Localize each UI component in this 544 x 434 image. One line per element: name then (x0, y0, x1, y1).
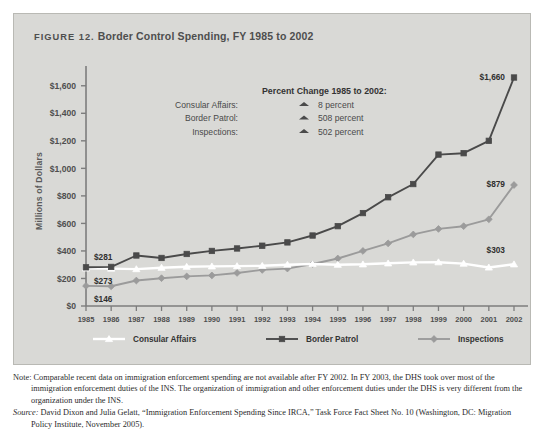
svg-text:$400: $400 (57, 246, 76, 256)
legend-item-inspections: Inspections (418, 335, 504, 344)
note-paragraph: Note: Comparable recent data on immigrat… (13, 372, 531, 406)
svg-text:1990: 1990 (204, 315, 221, 324)
series-consular-affairs (82, 259, 517, 272)
series-border-patrol (83, 75, 516, 270)
svg-text:$1,400: $1,400 (50, 108, 77, 118)
legend-label: Consular Affairs (133, 335, 197, 344)
data-point-marker (436, 152, 441, 157)
svg-text:$0: $0 (66, 301, 76, 311)
annotation-row-name: Inspections: (192, 127, 238, 137)
data-point-marker (209, 248, 214, 253)
figure-notes: Note: Comparable recent data on immigrat… (13, 372, 531, 430)
svg-text:$1,600: $1,600 (50, 81, 77, 91)
svg-text:2001: 2001 (480, 315, 497, 324)
note-text: Comparable recent data on immigration en… (31, 373, 522, 405)
svg-text:1996: 1996 (355, 315, 372, 324)
legend-item-consular-affairs: Consular Affairs (93, 335, 197, 344)
svg-text:1994: 1994 (304, 315, 322, 324)
annotation-heading: Percent Change 1985 to 2002: (262, 86, 387, 96)
point-label-border-patrol-start: $281 (94, 252, 113, 262)
line-chart: $0$200$400$600$800$1,000$1,200$1,400$1,6… (14, 58, 532, 348)
note-lead: Note: (13, 373, 31, 382)
svg-text:1993: 1993 (279, 315, 296, 324)
data-point-marker (511, 75, 516, 80)
data-point-marker (460, 223, 467, 230)
triangle-up-icon (299, 116, 309, 120)
svg-text:1995: 1995 (329, 315, 346, 324)
svg-text:1999: 1999 (430, 315, 447, 324)
source-paragraph: Source: David Dixon and Julia Gelatt, “I… (13, 407, 531, 430)
data-point-marker (360, 248, 367, 255)
data-series-layer (82, 75, 517, 290)
plot-area: Millions of Dollars $0$200$400$600$800$1… (14, 58, 532, 348)
figure-page: FIGURE 12. Border Control Spending, FY 1… (0, 0, 544, 434)
data-point-marker (385, 195, 390, 200)
data-point-marker (486, 138, 491, 143)
data-point-marker (184, 251, 189, 256)
svg-text:1988: 1988 (153, 315, 170, 324)
data-point-marker (335, 223, 340, 228)
point-label-consular-start: $273 (94, 276, 113, 286)
annotation-row-value: 508 percent (318, 113, 364, 123)
triangle-up-icon (299, 102, 309, 106)
figure-panel: FIGURE 12. Border Control Spending, FY 1… (13, 13, 531, 365)
legend-label: Border Patrol (306, 335, 358, 344)
annotation-row-value: 8 percent (318, 100, 354, 110)
data-point-marker (83, 283, 90, 290)
data-point-marker (260, 243, 265, 248)
data-point-marker (310, 233, 315, 238)
svg-text:1989: 1989 (178, 315, 195, 324)
chart-legend: Consular AffairsBorder PatrolInspections (93, 335, 504, 344)
legend-item-border-patrol: Border Patrol (266, 335, 358, 344)
point-label-inspections-start: $146 (94, 294, 113, 304)
axis-lines (86, 66, 528, 306)
data-point-marker (108, 264, 113, 269)
page-title: FIGURE 12. Border Control Spending, FY 1… (34, 30, 314, 42)
data-point-marker (83, 265, 88, 270)
series-line (86, 185, 514, 286)
data-point-marker (208, 272, 215, 279)
annotation-row-value: 502 percent (318, 127, 364, 137)
data-point-marker (234, 270, 241, 277)
svg-text:1997: 1997 (380, 315, 397, 324)
series-inspections (83, 182, 518, 290)
svg-text:$1,000: $1,000 (50, 164, 77, 174)
figure-number: FIGURE 12. (34, 32, 95, 42)
point-label-consular-end: $303 (487, 245, 506, 255)
svg-text:2002: 2002 (506, 315, 523, 324)
percent-change-annotation: Percent Change 1985 to 2002:Consular Aff… (175, 86, 387, 137)
svg-text:1991: 1991 (229, 315, 246, 324)
svg-text:$200: $200 (57, 274, 76, 284)
data-point-marker (431, 336, 438, 343)
data-point-marker (411, 181, 416, 186)
svg-text:1987: 1987 (128, 315, 145, 324)
data-point-marker (133, 277, 140, 284)
point-label-border-patrol-end: $1,660 (480, 72, 506, 82)
source-lead: Source: (13, 408, 39, 417)
svg-text:$800: $800 (57, 191, 76, 201)
data-point-marker (410, 231, 417, 238)
svg-text:1986: 1986 (103, 315, 120, 324)
svg-text:$600: $600 (57, 219, 76, 229)
svg-text:1998: 1998 (405, 315, 422, 324)
triangle-up-icon (299, 129, 309, 133)
annotation-row-name: Consular Affairs: (175, 100, 238, 110)
data-point-marker (435, 226, 442, 233)
data-point-marker (183, 273, 190, 280)
svg-text:1992: 1992 (254, 315, 271, 324)
point-label-inspections-end: $879 (487, 179, 506, 189)
x-axis-ticks: 1985198619871988198919901991199219931994… (78, 306, 523, 324)
data-point-marker (360, 210, 365, 215)
data-point-marker (158, 275, 165, 282)
data-point-marker (385, 240, 392, 247)
legend-label: Inspections (458, 335, 504, 344)
annotation-row-name: Border Patrol: (185, 113, 238, 123)
y-axis-ticks: $0$200$400$600$800$1,000$1,200$1,400$1,6… (50, 81, 86, 311)
svg-text:1985: 1985 (78, 315, 95, 324)
source-text: David Dixon and Julia Gelatt, “Immigrati… (31, 408, 511, 428)
figure-title-text: Border Control Spending, FY 1985 to 2002 (98, 30, 314, 42)
data-point-marker (461, 151, 466, 156)
data-point-marker (159, 255, 164, 260)
svg-text:2000: 2000 (455, 315, 472, 324)
data-point-marker (234, 246, 239, 251)
